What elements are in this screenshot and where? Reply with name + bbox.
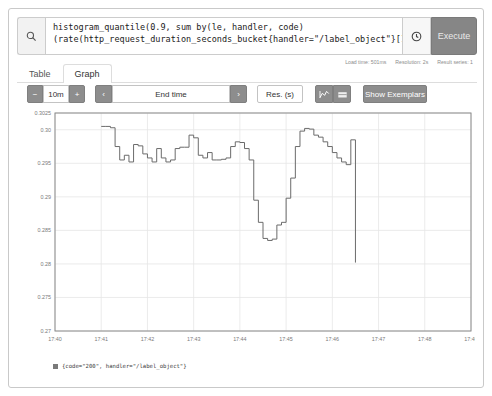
- range-increase-button[interactable]: +: [69, 85, 85, 103]
- end-time-input[interactable]: End time: [112, 85, 230, 103]
- result-tabs: Table Graph: [17, 61, 477, 83]
- x-axis-tick-label: 17:44: [233, 336, 247, 342]
- previous-time-button[interactable]: ‹: [95, 85, 112, 103]
- x-axis-tick-label: 17:46: [326, 336, 340, 342]
- prometheus-graph-page: histogram_quantile(0.9, sum by(le, handl…: [0, 0, 492, 396]
- x-axis-tick-label: 17:41: [94, 336, 108, 342]
- search-icon: [17, 17, 45, 55]
- y-axis-tick-label: 0.27: [41, 328, 52, 334]
- chart-legend[interactable]: {code="200", handler="/label_object"}: [53, 363, 187, 369]
- next-time-button[interactable]: ›: [230, 85, 247, 103]
- query-input[interactable]: histogram_quantile(0.9, sum by(le, handl…: [45, 17, 403, 55]
- y-axis-tick-label: 0.275: [38, 294, 52, 300]
- x-axis-tick-label: 17:47: [372, 336, 386, 342]
- execute-button[interactable]: Execute: [431, 17, 477, 55]
- time-series-chart: 0.270.2750.280.2850.290.2950.300.302517:…: [27, 109, 475, 357]
- chart-type-toggle: [315, 85, 351, 103]
- y-axis-tick-label: 0.29: [41, 194, 52, 200]
- query-line-2: (rate(http_request_duration_seconds_buck…: [53, 34, 396, 46]
- stacked-chart-icon[interactable]: [333, 85, 351, 103]
- query-panel: histogram_quantile(0.9, sum by(le, handl…: [8, 8, 484, 388]
- x-axis-tick-label: 17:45: [279, 336, 293, 342]
- legend-swatch: [53, 364, 58, 369]
- legend-label: {code="200", handler="/label_object"}: [62, 363, 187, 369]
- y-axis-tick-label: 0.295: [38, 160, 52, 166]
- range-input[interactable]: 10m: [43, 85, 69, 103]
- line-chart-icon[interactable]: [315, 85, 333, 103]
- x-axis-tick-label: 17:40: [48, 336, 62, 342]
- y-axis-tick-label: 0.3025: [35, 110, 52, 116]
- tab-graph[interactable]: Graph: [63, 64, 112, 83]
- resolution-input[interactable]: Res. (s): [257, 85, 303, 103]
- history-clock-icon[interactable]: [403, 17, 431, 55]
- y-axis-tick-label: 0.285: [38, 227, 52, 233]
- tab-table[interactable]: Table: [17, 64, 63, 83]
- x-axis-tick-label: 17:49: [464, 336, 475, 342]
- query-bar: histogram_quantile(0.9, sum by(le, handl…: [17, 17, 477, 55]
- range-stepper: − 10m +: [27, 85, 85, 103]
- graph-controls: − 10m + ‹ End time › Res. (s): [27, 85, 427, 103]
- query-line-1: histogram_quantile(0.9, sum by(le, handl…: [53, 22, 396, 34]
- y-axis-tick-label: 0.30: [41, 127, 52, 133]
- x-axis-tick-label: 17:43: [187, 336, 201, 342]
- end-time-group: ‹ End time ›: [95, 85, 247, 103]
- series-line: [101, 126, 355, 262]
- x-axis-tick-label: 17:42: [141, 336, 155, 342]
- range-decrease-button[interactable]: −: [27, 85, 43, 103]
- graph-canvas[interactable]: 0.270.2750.280.2850.290.2950.300.302517:…: [27, 109, 475, 357]
- x-axis-tick-label: 17:48: [418, 336, 432, 342]
- show-exemplars-button[interactable]: Show Exemplars: [363, 85, 427, 103]
- y-axis-tick-label: 0.28: [41, 261, 52, 267]
